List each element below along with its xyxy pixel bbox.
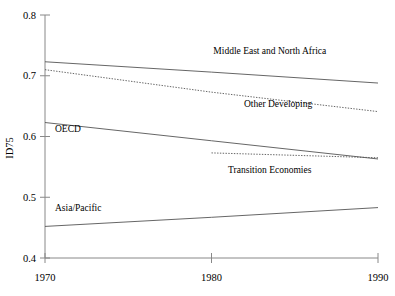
x-tick-label: 1970	[35, 272, 56, 283]
series-label-other-developing: Other Developing	[244, 99, 313, 109]
y-tick-label: 0.8	[23, 10, 36, 21]
chart-background	[0, 0, 395, 296]
line-chart: 0.40.50.60.70.8 197019801990 ID75 Middle…	[0, 0, 395, 296]
series-label-asia-pacific: Asia/Pacific	[55, 203, 101, 213]
chart-container: 0.40.50.60.70.8 197019801990 ID75 Middle…	[0, 0, 395, 296]
y-axis-title: ID75	[4, 137, 15, 159]
x-tick-label: 1980	[201, 272, 222, 283]
series-label-middle-east-and-north-africa: Middle East and North Africa	[213, 46, 327, 56]
y-tick-label: 0.5	[23, 192, 36, 203]
y-tick-label: 0.7	[23, 70, 36, 81]
y-tick-label: 0.4	[23, 253, 37, 264]
x-tick-label: 1990	[368, 272, 389, 283]
series-label-oecd: OECD	[55, 124, 81, 134]
y-tick-label: 0.6	[23, 131, 36, 142]
series-label-transition-economies: Transition Economies	[228, 165, 312, 175]
